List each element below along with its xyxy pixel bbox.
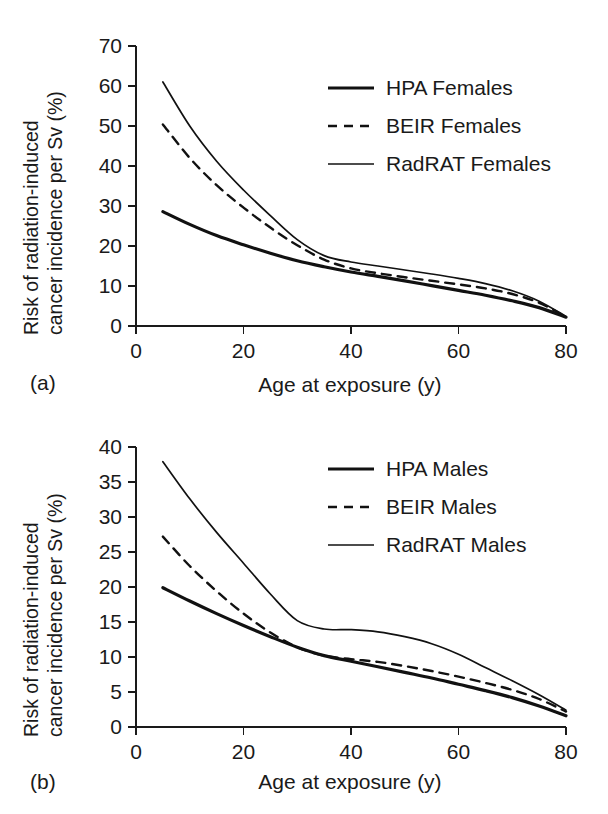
- y-tick-label: 30: [99, 194, 122, 217]
- legend-label: BEIR Males: [386, 495, 497, 518]
- panel-label-a: (a): [30, 371, 56, 394]
- legend-label: HPA Males: [386, 457, 488, 480]
- y-axis-tick-labels-a: 010203040506070: [99, 34, 122, 337]
- legend-item: HPA Males: [328, 457, 488, 480]
- y-axis-tick-labels-b: 0510152025303540: [99, 435, 122, 738]
- y-tick-label: 30: [99, 505, 122, 528]
- y-tick-label: 5: [110, 680, 122, 703]
- svg-text:cancer incidence per Sv (%): cancer incidence per Sv (%): [44, 493, 66, 737]
- axis-lines-b: [128, 447, 566, 735]
- svg-text:Risk of radiation-induced: Risk of radiation-induced: [20, 522, 42, 737]
- legend-label: BEIR Females: [386, 114, 521, 137]
- legend-item: BEIR Males: [328, 495, 497, 518]
- y-tick-label: 40: [99, 435, 122, 458]
- y-tick-label: 40: [99, 154, 122, 177]
- x-axis-tick-labels-b: 020406080: [130, 740, 578, 763]
- y-tick-label: 50: [99, 114, 122, 137]
- x-axis-tick-labels-a: 020406080: [130, 339, 578, 362]
- x-tick-label: 20: [232, 339, 255, 362]
- chart-a-svg: Risk of radiation-induced cancer inciden…: [0, 0, 608, 407]
- y-axis-title-b: Risk of radiation-induced cancer inciden…: [20, 493, 66, 737]
- x-tick-label: 60: [447, 339, 470, 362]
- svg-text:cancer incidence per Sv (%): cancer incidence per Sv (%): [44, 91, 66, 335]
- legend-item: RadRAT Females: [328, 152, 551, 175]
- y-tick-label: 35: [99, 470, 122, 493]
- y-axis-title-a: Risk of radiation-induced cancer inciden…: [20, 91, 66, 335]
- legend-b: HPA MalesBEIR MalesRadRAT Males: [328, 457, 526, 556]
- y-tick-label: 70: [99, 34, 122, 57]
- legend-label: RadRAT Females: [386, 152, 551, 175]
- chart-b-svg: Risk of radiation-induced cancer inciden…: [0, 407, 608, 814]
- x-tick-label: 80: [554, 740, 577, 763]
- y-tick-label: 20: [99, 575, 122, 598]
- x-tick-label: 20: [232, 740, 255, 763]
- panel-label-b: (b): [30, 770, 56, 793]
- svg-text:Risk of radiation-induced: Risk of radiation-induced: [20, 120, 42, 335]
- x-tick-label: 60: [447, 740, 470, 763]
- chart-panel-b: Risk of radiation-induced cancer inciden…: [0, 407, 608, 814]
- chart-panel-a: Risk of radiation-induced cancer inciden…: [0, 0, 608, 407]
- y-tick-label: 0: [110, 715, 122, 738]
- y-tick-label: 25: [99, 540, 122, 563]
- figure-root: Risk of radiation-induced cancer inciden…: [0, 0, 608, 814]
- legend-label: RadRAT Males: [386, 533, 526, 556]
- y-tick-label: 0: [110, 314, 122, 337]
- series-lines-b: [163, 462, 566, 716]
- series-line-radrat-males: [163, 462, 566, 711]
- series-line-hpa-males: [163, 588, 566, 716]
- legend-label: HPA Females: [386, 76, 513, 99]
- legend-item: RadRAT Males: [328, 533, 526, 556]
- legend-a: HPA FemalesBEIR FemalesRadRAT Females: [328, 76, 551, 175]
- series-line-beir-males: [163, 537, 566, 712]
- y-tick-label: 60: [99, 74, 122, 97]
- legend-item: BEIR Females: [328, 114, 521, 137]
- x-tick-label: 0: [130, 339, 142, 362]
- y-tick-label: 15: [99, 610, 122, 633]
- x-tick-label: 0: [130, 740, 142, 763]
- legend-item: HPA Females: [328, 76, 513, 99]
- x-axis-title-b: Age at exposure (y): [258, 770, 441, 793]
- x-tick-label: 40: [339, 339, 362, 362]
- y-tick-label: 20: [99, 234, 122, 257]
- y-tick-label: 10: [99, 645, 122, 668]
- x-tick-label: 40: [339, 740, 362, 763]
- y-tick-label: 10: [99, 274, 122, 297]
- x-tick-label: 80: [554, 339, 577, 362]
- x-axis-title-a: Age at exposure (y): [258, 373, 441, 396]
